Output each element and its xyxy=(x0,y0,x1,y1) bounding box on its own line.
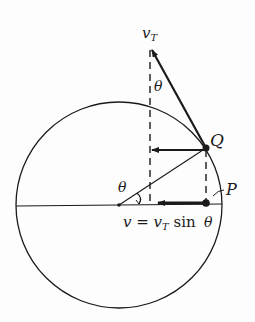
velocity-equation: v = vT sin xyxy=(123,213,196,232)
angle-top-label: θ xyxy=(154,78,163,94)
vt-label: vT xyxy=(142,24,158,43)
center-angle-arc-tick xyxy=(136,199,141,204)
center-point xyxy=(117,203,121,207)
point-p-dot xyxy=(202,199,210,207)
point-q-dot xyxy=(203,145,210,152)
angle-center-label: θ xyxy=(118,179,127,195)
tangential-velocity-arrow xyxy=(152,50,206,148)
angle-bottom-label: θ xyxy=(204,214,213,230)
p-pointer-line xyxy=(213,190,224,196)
point-q-label: Q xyxy=(210,130,224,150)
point-p-label: P xyxy=(225,180,237,199)
circular-motion-diagram: vT θ Q θ P v = vT sin θ xyxy=(0,0,255,322)
diagram-svg: vT θ Q θ P v = vT sin θ xyxy=(0,0,255,322)
radius-line xyxy=(119,148,206,205)
